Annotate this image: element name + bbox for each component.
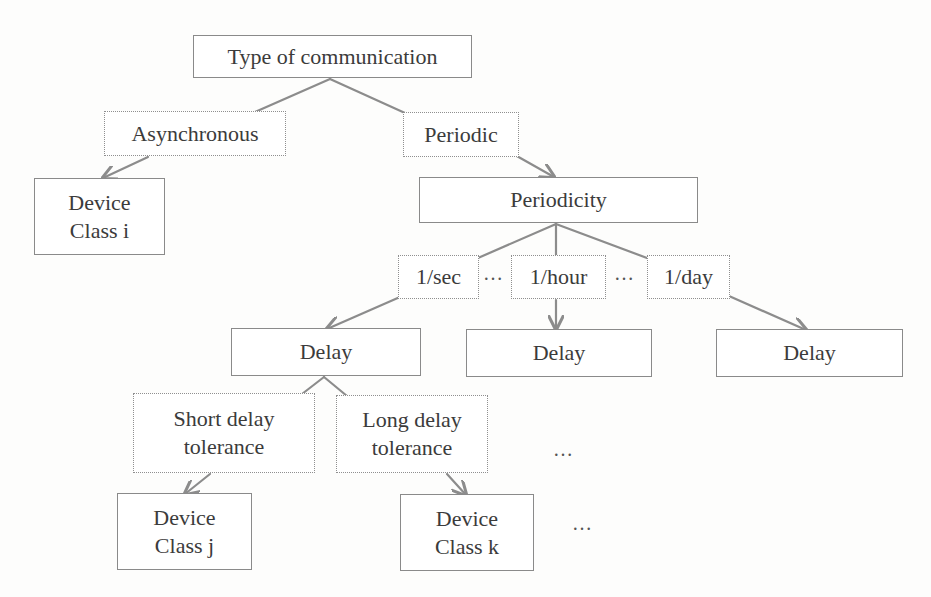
ellipsis-continuation: … (483, 262, 504, 285)
ellipsis-continuation: … (614, 262, 635, 285)
node-label: Long delay tolerance (362, 406, 462, 462)
node-periodic: Periodic (403, 112, 519, 157)
node-label: Device Class k (435, 505, 499, 561)
node-per-day: 1/day (647, 255, 730, 299)
arrow-long_tol-to-class_k (447, 474, 466, 495)
node-label: Periodicity (510, 186, 607, 214)
node-label: Delay (783, 339, 836, 367)
arrow-async-to-class_i (103, 157, 148, 178)
node-label: 1/sec (416, 263, 461, 291)
node-short-tol: Short delay tolerance (133, 393, 315, 473)
node-label: Delay (533, 339, 586, 367)
connector-periodicity-to-per_day (556, 224, 647, 258)
node-periodicity: Periodicity (419, 177, 698, 223)
arrow-per_day-to-delay_day (729, 296, 806, 330)
arrow-periodic-to-periodicity (515, 155, 554, 177)
node-label: Device Class i (68, 189, 130, 245)
node-label: Short delay tolerance (174, 405, 275, 461)
node-label: Device Class j (153, 504, 215, 560)
node-delay-day: Delay (716, 329, 903, 377)
connector-periodicity-to-per_sec (478, 224, 556, 258)
ellipsis-continuation: … (553, 438, 574, 461)
node-label: Type of communication (228, 43, 438, 71)
node-per-hour: 1/hour (511, 255, 606, 299)
node-long-tol: Long delay tolerance (336, 395, 488, 473)
node-label: 1/day (664, 263, 713, 291)
node-label: 1/hour (530, 263, 587, 291)
node-label: Asynchronous (131, 120, 258, 148)
connector-delay_sec-to-short_tol (302, 377, 324, 394)
node-per-sec: 1/sec (398, 255, 479, 299)
node-delay-sec: Delay (231, 328, 421, 376)
arrow-per_sec-to-delay_sec (327, 297, 400, 329)
node-label: Delay (300, 338, 353, 366)
node-label: Periodic (424, 121, 497, 149)
connector-root-to-async (255, 79, 330, 112)
node-class-j: Device Class j (117, 493, 252, 570)
connector-delay_sec-to-long_tol (324, 377, 347, 396)
communication-type-tree-diagram: Type of communicationAsynchronousPeriodi… (0, 0, 931, 597)
arrow-short_tol-to-class_j (185, 474, 210, 494)
node-delay-hour: Delay (466, 329, 652, 377)
ellipsis-continuation: … (572, 512, 593, 535)
node-class-i: Device Class i (34, 178, 165, 255)
node-async: Asynchronous (104, 111, 286, 156)
node-class-k: Device Class k (400, 494, 534, 571)
node-root: Type of communication (193, 35, 472, 78)
connector-root-to-periodic (330, 79, 405, 113)
